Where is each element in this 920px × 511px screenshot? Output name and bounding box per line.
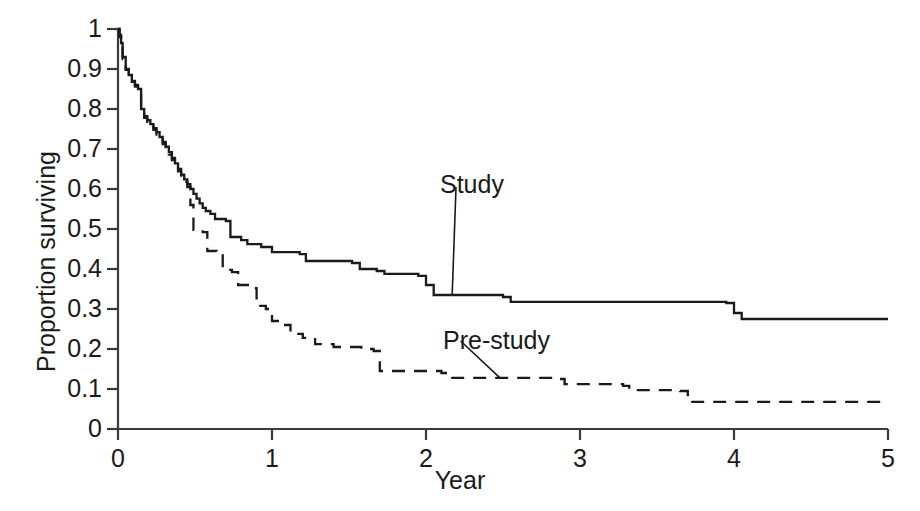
- x-tick-label: 4: [704, 446, 764, 471]
- leader-line: [452, 187, 456, 295]
- y-tick-label: 0.2: [67, 336, 102, 361]
- y-tick-label: 0.4: [67, 256, 102, 281]
- survival-curve-figure: Proportion surviving Year Study Pre-stud…: [0, 0, 920, 511]
- series-label-study: Study: [440, 172, 504, 197]
- y-tick-label: 1: [88, 16, 102, 41]
- y-tick-label: 0.7: [67, 136, 102, 161]
- y-tick-label: 0.5: [67, 216, 102, 241]
- y-tick-label: 0: [88, 416, 102, 441]
- y-tick-label: 0.1: [67, 376, 102, 401]
- x-tick-label: 2: [396, 446, 456, 471]
- x-tick-label: 5: [858, 446, 918, 471]
- chart-plot-area: [0, 0, 920, 511]
- x-tick-label: 1: [242, 446, 302, 471]
- y-tick-label: 0.8: [67, 96, 102, 121]
- series-label-pre-study: Pre-study: [443, 328, 550, 353]
- x-axis-title: Year: [0, 468, 920, 493]
- y-tick-label: 0.6: [67, 176, 102, 201]
- y-axis-title: Proportion surviving: [34, 151, 59, 372]
- y-tick-label: 0.3: [67, 296, 102, 321]
- y-tick-label: 0.9: [67, 56, 102, 81]
- x-tick-label: 3: [550, 446, 610, 471]
- x-tick-label: 0: [88, 446, 148, 471]
